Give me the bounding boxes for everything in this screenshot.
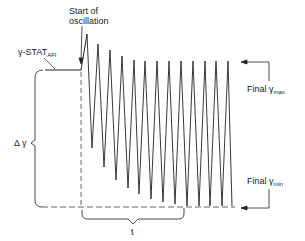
final-min-subscript: min	[274, 181, 284, 187]
start-label-line2: oscillation	[69, 16, 109, 26]
start-arrow	[79, 26, 83, 64]
final-min-arrow	[241, 189, 269, 210]
t-text: t	[131, 227, 134, 237]
start-label-line1: Start of	[69, 6, 109, 16]
delta-gamma-text: Δ γ	[14, 138, 27, 148]
gamma-stat-label: γ-STATAFI	[18, 47, 57, 60]
final-min-text: Final	[247, 176, 267, 186]
final-max-subscript: max	[274, 89, 285, 95]
delta-gamma-brace	[31, 70, 43, 207]
final-min-label: Final γmin	[247, 176, 283, 189]
gamma-stat-subscript: AFI	[47, 52, 56, 58]
final-max-text: Final	[247, 84, 267, 94]
final-max-arrow	[241, 60, 269, 81]
start-of-oscillation-label: Start of oscillation	[69, 6, 109, 26]
oscillation-waveform	[87, 34, 232, 206]
delta-gamma-label: Δ γ	[14, 138, 27, 148]
oscillation-diagram	[0, 0, 305, 241]
gamma-stat-text: γ-STAT	[18, 47, 47, 57]
t-brace	[82, 208, 184, 224]
t-label: t	[131, 227, 134, 237]
final-max-label: Final γmax	[247, 84, 285, 97]
